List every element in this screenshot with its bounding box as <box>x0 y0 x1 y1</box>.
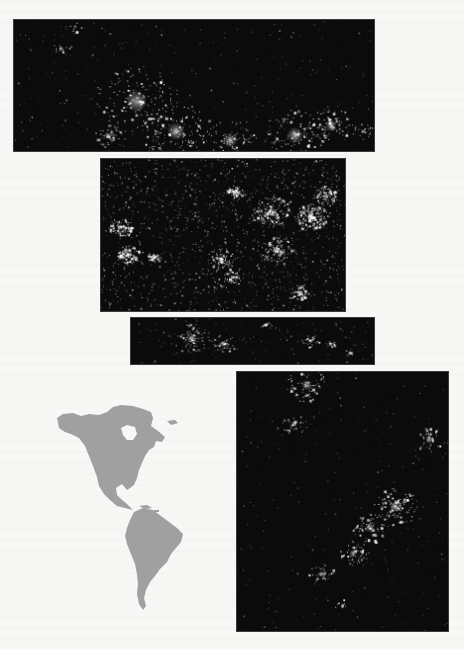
panel-north-america-north <box>13 19 375 152</box>
night-lights-image <box>131 318 374 364</box>
panel-south-america <box>236 371 449 632</box>
south-america-shape <box>125 508 183 610</box>
americas-silhouette <box>57 405 183 610</box>
panel-contiguous-united-states <box>100 158 346 312</box>
north-america-shape <box>57 405 165 510</box>
americas-locator-map <box>55 404 185 612</box>
night-lights-image <box>101 159 345 311</box>
night-lights-image <box>14 20 374 151</box>
greenland-tip <box>167 420 178 425</box>
panel-mexico-caribbean <box>130 317 375 365</box>
night-lights-image <box>237 372 448 631</box>
